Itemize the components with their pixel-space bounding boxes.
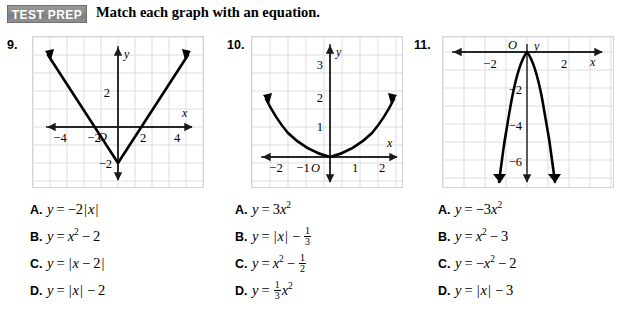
- options-9: A. y=−2|x| B. y=x2−2 C. y=|x−2| D. y=|x|…: [30, 196, 105, 304]
- graph-9: x y O −4 −2 2 4 2 −2: [32, 36, 204, 188]
- option-equation: y=x2−12: [252, 253, 307, 274]
- option-letter: B.: [438, 230, 455, 244]
- option-equation: y=13x2: [252, 280, 293, 301]
- page-title: Match each graph with an equation.: [96, 4, 320, 21]
- option-d[interactable]: D. y=|x|−2: [30, 277, 105, 304]
- option-equation: y=x2−3: [455, 228, 508, 245]
- option-letter: D.: [438, 284, 455, 298]
- option-letter: A.: [30, 203, 47, 217]
- svg-text:2: 2: [317, 91, 323, 105]
- svg-text:x: x: [589, 55, 596, 69]
- option-letter: D.: [235, 284, 252, 298]
- svg-text:−4: −4: [53, 131, 67, 145]
- option-equation: y=−3x2: [455, 201, 502, 218]
- option-c[interactable]: C. y=|x−2|: [30, 250, 105, 277]
- svg-text:4: 4: [174, 131, 181, 145]
- graph-11-svg: x y O −2 2 −2 −4 −6: [442, 36, 614, 188]
- options-10: A. y=3x2 B. y=|x|−13 C. y=x2−12 D. y=13x…: [235, 196, 312, 304]
- option-letter: A.: [438, 203, 455, 217]
- options-11: A. y=−3x2 B. y=x2−3 C. y=−x2−2 D. y=|x|−…: [438, 196, 516, 304]
- svg-text:y: y: [123, 47, 130, 61]
- option-b[interactable]: B. y=x2−3: [438, 223, 516, 250]
- test-prep-badge: TEST PREP: [7, 5, 87, 23]
- option-letter: A.: [235, 203, 252, 217]
- problem-number: 11.: [414, 38, 431, 52]
- svg-text:3: 3: [317, 58, 323, 72]
- svg-text:−2: −2: [269, 161, 282, 175]
- option-a[interactable]: A. y=−3x2: [438, 196, 516, 223]
- graph-11: x y O −2 2 −2 −4 −6: [442, 36, 614, 188]
- axis-labels: x y O −2 2 −2 −4 −6: [483, 38, 596, 169]
- option-a[interactable]: A. y=3x2: [235, 196, 312, 223]
- svg-text:2: 2: [379, 161, 385, 175]
- option-letter: B.: [235, 230, 252, 244]
- svg-text:x: x: [386, 136, 393, 150]
- option-letter: B.: [30, 230, 47, 244]
- svg-text:−2: −2: [509, 83, 522, 97]
- option-equation: y=|x|−2: [47, 282, 105, 299]
- option-equation: y=|x−2|: [47, 255, 105, 272]
- svg-text:y: y: [335, 45, 342, 59]
- svg-text:2: 2: [104, 86, 110, 100]
- svg-text:O: O: [508, 38, 517, 52]
- svg-text:1: 1: [352, 161, 358, 175]
- option-equation: y=3x2: [252, 201, 291, 218]
- option-letter: C.: [438, 257, 455, 271]
- option-equation: y=|x|−3: [455, 282, 513, 299]
- svg-text:−6: −6: [509, 155, 522, 169]
- option-equation: y=−x2−2: [455, 255, 516, 272]
- problem-number: 9.: [7, 38, 17, 52]
- graph-10-svg: x y O −2 −1 1 2 1 2 3: [251, 36, 403, 188]
- option-equation: y=x2−2: [47, 228, 100, 245]
- option-letter: D.: [30, 284, 47, 298]
- option-equation: y=|x|−13: [252, 226, 312, 247]
- option-equation: y=−2|x|: [47, 201, 99, 218]
- svg-text:1: 1: [317, 120, 323, 134]
- graph-9-svg: x y O −4 −2 2 4 2 −2: [32, 36, 204, 188]
- svg-text:2: 2: [140, 131, 146, 145]
- option-d[interactable]: D. y=13x2: [235, 277, 312, 304]
- option-b[interactable]: B. y=|x|−13: [235, 223, 312, 250]
- svg-text:−2: −2: [99, 157, 112, 171]
- option-b[interactable]: B. y=x2−2: [30, 223, 105, 250]
- option-letter: C.: [235, 257, 252, 271]
- svg-text:−1: −1: [296, 161, 309, 175]
- option-a[interactable]: A. y=−2|x|: [30, 196, 105, 223]
- graph-10: x y O −2 −1 1 2 1 2 3: [251, 36, 403, 188]
- page-header: TEST PREP Match each graph with an equat…: [0, 0, 620, 32]
- problem-number: 10.: [227, 38, 244, 52]
- svg-text:−4: −4: [509, 119, 523, 133]
- grid-lines: [442, 36, 614, 188]
- option-d[interactable]: D. y=|x|−3: [438, 277, 516, 304]
- svg-text:x: x: [181, 106, 188, 120]
- option-c[interactable]: C. y=−x2−2: [438, 250, 516, 277]
- option-letter: C.: [30, 257, 47, 271]
- svg-text:−2: −2: [483, 57, 496, 71]
- svg-text:−2: −2: [87, 131, 100, 145]
- svg-text:2: 2: [561, 57, 567, 71]
- option-c[interactable]: C. y=x2−12: [235, 250, 312, 277]
- axes: [452, 44, 602, 182]
- svg-text:y: y: [533, 39, 540, 53]
- svg-text:O: O: [311, 161, 320, 175]
